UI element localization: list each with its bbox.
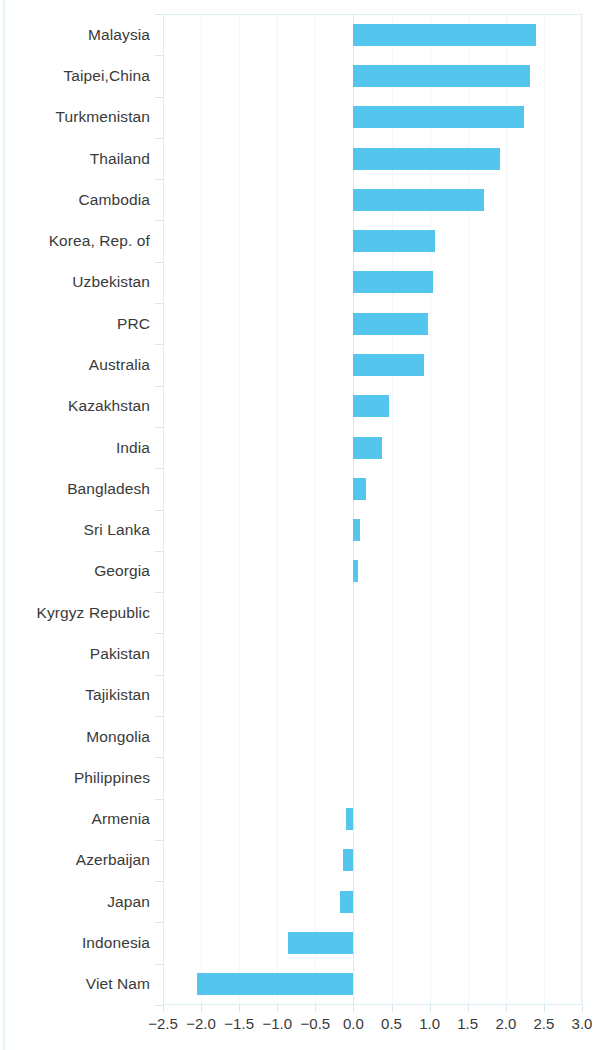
category-tick — [155, 262, 163, 263]
category-tick — [155, 14, 163, 15]
category-tick — [155, 551, 163, 552]
category-label: Uzbekistan — [72, 273, 150, 291]
category-label: Japan — [107, 893, 150, 911]
value-tick — [544, 1005, 545, 1012]
value-tick — [163, 1005, 164, 1012]
plot-frame — [163, 14, 582, 1005]
category-label: PRC — [117, 315, 150, 333]
category-tick — [155, 303, 163, 304]
category-tick — [155, 922, 163, 923]
category-label: Kyrgyz Republic — [37, 604, 151, 622]
category-label: Viet Nam — [86, 975, 150, 993]
category-label: Tajikistan — [85, 686, 150, 704]
category-tick — [155, 633, 163, 634]
category-label: Kazakhstan — [68, 397, 150, 415]
value-tick — [353, 1005, 354, 1012]
category-tick — [155, 55, 163, 56]
value-tick — [239, 1005, 240, 1012]
category-tick — [155, 344, 163, 345]
category-label: Armenia — [92, 810, 150, 828]
category-tick — [155, 220, 163, 221]
category-axis: MalaysiaTaipei,ChinaTurkmenistanThailand… — [0, 0, 158, 1005]
value-tick — [315, 1005, 316, 1012]
value-tick-label: 3.0 — [557, 1015, 599, 1032]
category-label: Australia — [89, 356, 150, 374]
category-tick — [155, 881, 163, 882]
category-label: Bangladesh — [67, 480, 150, 498]
category-tick — [155, 386, 163, 387]
value-tick — [430, 1005, 431, 1012]
category-label: Sri Lanka — [84, 521, 150, 539]
category-label: Mongolia — [86, 728, 150, 746]
bar-chart: MalaysiaTaipei,ChinaTurkmenistanThailand… — [0, 0, 599, 1050]
category-label: Taipei,China — [63, 67, 150, 85]
value-tick — [201, 1005, 202, 1012]
category-label: Azerbaijan — [76, 851, 150, 869]
category-tick — [155, 964, 163, 965]
category-tick — [155, 716, 163, 717]
category-label: Pakistan — [90, 645, 150, 663]
category-label: Georgia — [94, 562, 150, 580]
category-tick — [155, 840, 163, 841]
category-label: Turkmenistan — [55, 108, 150, 126]
category-tick — [155, 675, 163, 676]
category-tick — [155, 799, 163, 800]
value-tick — [506, 1005, 507, 1012]
category-tick — [155, 592, 163, 593]
value-tick — [468, 1005, 469, 1012]
category-label: Malaysia — [88, 26, 150, 44]
category-tick — [155, 179, 163, 180]
category-tick — [155, 1005, 163, 1006]
category-tick — [155, 427, 163, 428]
category-tick — [155, 468, 163, 469]
category-label: Philippines — [74, 769, 150, 787]
category-tick — [155, 138, 163, 139]
value-tick — [392, 1005, 393, 1012]
category-label: Indonesia — [82, 934, 150, 952]
value-axis: −2.5−2.0−1.5−1.0−0.50.00.51.01.52.02.53.… — [163, 1005, 582, 1050]
category-label: India — [116, 439, 150, 457]
category-label: Thailand — [90, 150, 150, 168]
category-tick — [155, 510, 163, 511]
category-label: Cambodia — [79, 191, 150, 209]
value-tick — [277, 1005, 278, 1012]
category-label: Korea, Rep. of — [49, 232, 150, 250]
category-tick — [155, 757, 163, 758]
gridline — [582, 14, 583, 1005]
value-tick — [582, 1005, 583, 1012]
category-tick — [155, 97, 163, 98]
plot-area — [163, 14, 582, 1005]
